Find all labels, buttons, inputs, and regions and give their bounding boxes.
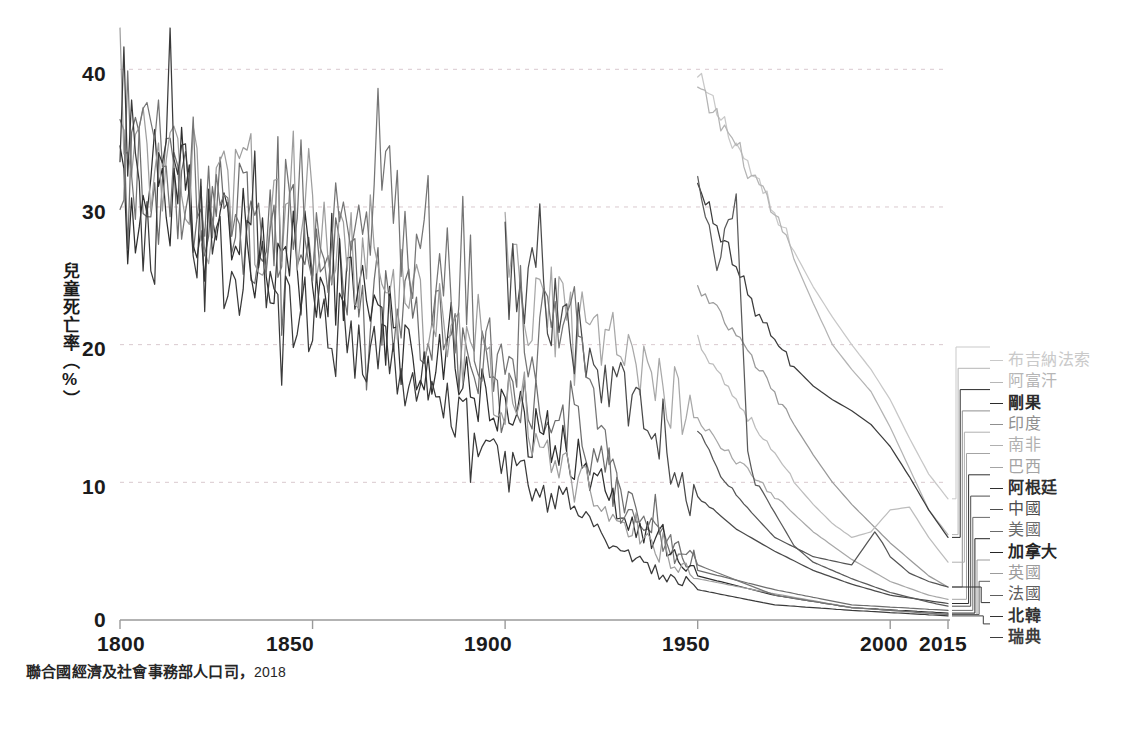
axis-lines bbox=[120, 620, 950, 629]
legend-item-8[interactable]: 美國 bbox=[990, 522, 1041, 538]
legend-item-11[interactable]: 法國 bbox=[990, 586, 1041, 602]
caption-year: 2018 bbox=[254, 664, 286, 680]
xtick-label-1950: 1950 bbox=[641, 632, 731, 656]
series-lines bbox=[120, 28, 948, 616]
legend-label: 印度 bbox=[1008, 415, 1041, 432]
series-line bbox=[120, 71, 948, 615]
legend-item-13[interactable]: 瑞典 bbox=[990, 629, 1041, 645]
series-line bbox=[120, 28, 948, 616]
legend-connectors bbox=[952, 347, 990, 624]
ytick-label-40: 40 bbox=[46, 62, 106, 86]
legend-item-1[interactable]: 阿富汗 bbox=[990, 373, 1058, 389]
legend-item-10[interactable]: 英國 bbox=[990, 565, 1041, 581]
legend-swatch-line bbox=[990, 445, 1003, 446]
source-caption: 聯合國經濟及社會事務部人口司，2018 bbox=[26, 660, 286, 681]
caption-separator: ， bbox=[239, 663, 254, 680]
chart-figure: 0 10 20 30 40 1800 1850 1900 1950 2000 2… bbox=[0, 0, 1126, 734]
y-axis-title: 兒童死亡率（%） bbox=[48, 262, 78, 408]
legend-label: 布吉納法索 bbox=[1008, 351, 1091, 368]
legend-label: 中國 bbox=[1008, 500, 1041, 517]
legend-item-3[interactable]: 印度 bbox=[990, 416, 1041, 432]
legend-item-4[interactable]: 南非 bbox=[990, 437, 1041, 453]
legend-label: 加拿大 bbox=[1008, 543, 1058, 560]
legend-swatch-line bbox=[990, 360, 1003, 361]
xtick-label-1800: 1800 bbox=[76, 632, 166, 656]
legend-swatch-line bbox=[990, 403, 1003, 404]
legend-item-12[interactable]: 北韓 bbox=[990, 608, 1041, 624]
legend-label: 北韓 bbox=[1008, 607, 1041, 624]
series-line bbox=[698, 74, 948, 499]
xtick-label-1900: 1900 bbox=[443, 632, 533, 656]
legend-label: 法國 bbox=[1008, 585, 1041, 602]
series-line bbox=[698, 183, 948, 537]
legend-item-0[interactable]: 布吉納法索 bbox=[990, 352, 1091, 368]
legend-item-2[interactable]: 剛果 bbox=[990, 395, 1041, 411]
line-chart-plot bbox=[0, 0, 1126, 734]
legend-swatch-line bbox=[990, 531, 1003, 532]
legend-swatch-line bbox=[990, 616, 1003, 617]
xtick-label-1850: 1850 bbox=[245, 632, 335, 656]
series-line bbox=[120, 117, 948, 610]
legend-swatch-line bbox=[990, 509, 1003, 510]
caption-source: 聯合國經濟及社會事務部人口司 bbox=[26, 663, 239, 680]
legend-swatch-line bbox=[990, 488, 1003, 489]
legend-swatch-line bbox=[990, 424, 1003, 425]
series-line bbox=[698, 286, 948, 587]
xtick-label-2015: 2015 bbox=[898, 632, 988, 656]
legend-item-5[interactable]: 巴西 bbox=[990, 459, 1041, 475]
legend-swatch-line bbox=[990, 637, 1003, 638]
ytick-label-0: 0 bbox=[46, 608, 106, 632]
legend-swatch-line bbox=[990, 573, 1003, 574]
legend-swatch-line bbox=[990, 595, 1003, 596]
series-line bbox=[698, 177, 948, 607]
legend-swatch-line bbox=[990, 467, 1003, 468]
legend-label: 瑞典 bbox=[1008, 628, 1041, 645]
legend-label: 南非 bbox=[1008, 436, 1041, 453]
legend-label: 巴西 bbox=[1008, 458, 1041, 475]
legend-label: 美國 bbox=[1008, 521, 1041, 538]
legend-label: 剛果 bbox=[1008, 394, 1041, 411]
series-line bbox=[505, 204, 948, 604]
legend-item-6[interactable]: 阿根廷 bbox=[990, 480, 1058, 496]
legend-item-7[interactable]: 中國 bbox=[990, 501, 1041, 517]
legend-swatch-line bbox=[990, 552, 1003, 553]
ytick-label-30: 30 bbox=[46, 200, 106, 224]
legend-item-9[interactable]: 加拿大 bbox=[990, 544, 1058, 560]
series-line bbox=[120, 28, 948, 615]
legend-label: 阿富汗 bbox=[1008, 372, 1058, 389]
legend-connector bbox=[952, 616, 990, 624]
legend-label: 英國 bbox=[1008, 564, 1041, 581]
legend-swatch-line bbox=[990, 382, 1003, 383]
legend-label: 阿根廷 bbox=[1008, 479, 1058, 496]
ytick-label-10: 10 bbox=[46, 475, 106, 499]
